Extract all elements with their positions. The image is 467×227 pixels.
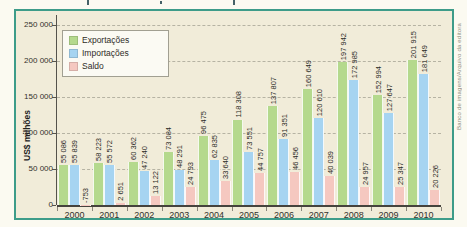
bar-exportações-2004: 96 475 <box>198 136 209 205</box>
bar-value-label: 96 475 <box>199 111 208 134</box>
bar-group-2005: 118 30873 55144 757 <box>232 25 267 205</box>
bar-importações-2002: 47 240 <box>139 171 150 205</box>
bar-value-label: 73 084 <box>164 127 173 150</box>
bar-exportações-2002: 60 362 <box>128 162 139 205</box>
title-remnant-mark <box>233 0 235 5</box>
bar-value-label: 24 793 <box>186 162 195 185</box>
legend-item-importacoes: Importações <box>69 48 161 58</box>
x-axis-label-2003: 2003 <box>162 210 197 220</box>
x-axis-label-2009: 2009 <box>371 210 406 220</box>
bar-value-label: 55 086 <box>59 140 68 163</box>
bar-saldo-2010: 20 226 <box>429 190 440 205</box>
y-tick-label: 200 000 <box>16 56 53 66</box>
bar-value-label: 127 647 <box>384 84 393 111</box>
bar-value-label: 137 807 <box>268 77 277 104</box>
bar-group-2008: 197 942172 98524 957 <box>336 25 371 205</box>
exportacoes-swatch-icon <box>69 36 78 45</box>
x-axis-label-2001: 2001 <box>92 210 127 220</box>
bar-value-label: 47 240 <box>140 146 149 169</box>
bar-importações-2008: 172 985 <box>348 80 359 205</box>
x-axis-label-2010: 2010 <box>406 210 441 220</box>
chart-frame: US$ milhões 250 000200 000150 000100 000… <box>14 9 454 220</box>
x-axis-label-2005: 2005 <box>232 210 267 220</box>
bar-saldo-2006: 46 456 <box>289 172 300 205</box>
y-tick-label: 150 000 <box>16 92 53 102</box>
bar-value-label: 197 942 <box>338 33 347 60</box>
bar-saldo-2007: 40 039 <box>324 176 335 205</box>
bar-value-label: 40 039 <box>325 151 334 174</box>
x-axis-label-2004: 2004 <box>197 210 232 220</box>
x-tick-mark <box>441 207 442 211</box>
title-remnant-mark <box>160 1 162 4</box>
bar-group-2007: 160 649120 61040 039 <box>301 25 336 205</box>
bar-value-label: 58 223 <box>94 138 103 161</box>
bar-group-2010: 201 915181 64920 226 <box>406 25 441 205</box>
x-axis-label-2007: 2007 <box>301 210 336 220</box>
y-tick-label: 0 <box>16 200 53 210</box>
bar-value-label: 62 835 <box>210 135 219 158</box>
bar-value-label: 201 915 <box>408 31 417 58</box>
bar-value-label: 20 226 <box>430 165 439 188</box>
legend-item-saldo: Saldo <box>69 61 161 71</box>
bar-importações-2004: 62 835 <box>209 160 220 205</box>
bar-value-label: 73 551 <box>244 127 253 150</box>
saldo-swatch-icon <box>69 62 78 71</box>
bar-value-label: 24 957 <box>360 162 369 185</box>
scanned-chart-page: { "credit": "Banco de imagens/Arquivo da… <box>0 0 467 227</box>
x-axis-label-2000: 2000 <box>57 210 92 220</box>
y-tick-label: 50 000 <box>16 164 53 174</box>
bar-saldo-2008: 24 957 <box>359 187 370 205</box>
bar-value-label: 181 649 <box>419 45 428 72</box>
bar-value-label: 2 651 <box>116 182 125 201</box>
bar-saldo-2000: -753 <box>80 205 91 206</box>
legend-item-exportacoes: Exportações <box>69 35 161 45</box>
bar-value-label: 120 610 <box>314 89 323 116</box>
y-tick-label: 100 000 <box>16 128 53 138</box>
bar-exportações-2003: 73 084 <box>163 152 174 205</box>
bar-importações-2005: 73 551 <box>243 152 254 205</box>
bar-importações-2006: 91 351 <box>278 139 289 205</box>
bar-importações-2000: 55 839 <box>69 165 80 205</box>
bar-exportações-2009: 152 994 <box>372 95 383 205</box>
bar-value-label: 55 572 <box>105 140 114 163</box>
bar-exportações-2005: 118 308 <box>232 120 243 205</box>
legend-label: Exportações <box>82 35 129 45</box>
bar-saldo-2003: 24 793 <box>185 187 196 205</box>
legend: Exportações Importações Saldo <box>62 30 169 77</box>
bar-value-label: 25 347 <box>395 162 404 185</box>
importacoes-swatch-icon <box>69 49 78 58</box>
image-credit: Banco de imagens/Arquivo da editora <box>453 12 464 140</box>
bar-saldo-2002: 13 122 <box>150 196 161 205</box>
bar-importações-2001: 55 572 <box>104 165 115 205</box>
bar-value-label: -753 <box>81 188 90 203</box>
bar-importações-2009: 127 647 <box>383 113 394 205</box>
bar-value-label: 48 291 <box>175 145 184 168</box>
bar-value-label: 172 985 <box>349 51 358 78</box>
title-remnant-mark <box>87 0 89 5</box>
x-axis-label-2002: 2002 <box>127 210 162 220</box>
y-tick-mark <box>52 205 56 206</box>
bar-exportações-2006: 137 807 <box>267 106 278 205</box>
bar-value-label: 33 640 <box>221 156 230 179</box>
bar-value-label: 152 994 <box>373 66 382 93</box>
bar-importações-2007: 120 610 <box>313 118 324 205</box>
bar-value-label: 44 757 <box>255 148 264 171</box>
bar-group-2004: 96 47562 83533 640 <box>197 25 232 205</box>
x-axis-label-2008: 2008 <box>336 210 371 220</box>
bar-exportações-2010: 201 915 <box>407 60 418 205</box>
bar-value-label: 160 649 <box>303 60 312 87</box>
bar-exportações-2001: 58 223 <box>93 163 104 205</box>
bar-importações-2003: 48 291 <box>174 170 185 205</box>
bar-exportações-2000: 55 086 <box>58 165 69 205</box>
bar-exportações-2008: 197 942 <box>337 62 348 205</box>
bar-value-label: 60 362 <box>129 137 138 160</box>
bar-importações-2010: 181 649 <box>418 74 429 205</box>
bar-group-2006: 137 80791 35146 456 <box>266 25 301 205</box>
legend-label: Importações <box>82 48 129 58</box>
bar-value-label: 91 351 <box>279 114 288 137</box>
x-axis-label-2006: 2006 <box>266 210 301 220</box>
bar-saldo-2004: 33 640 <box>220 181 231 205</box>
y-tick-label: 250 000 <box>16 20 53 30</box>
bar-value-label: 13 122 <box>151 171 160 194</box>
bar-group-2009: 152 994127 64725 347 <box>371 25 406 205</box>
